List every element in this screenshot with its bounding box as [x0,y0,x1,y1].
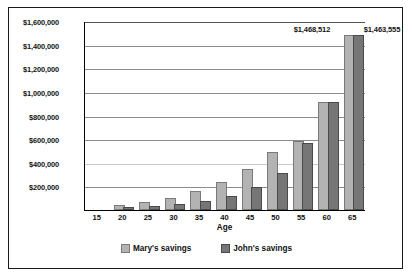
y-axis-tick-label: $400,000 [0,159,59,168]
legend-swatch-icon [221,244,230,253]
legend-item-mary[interactable]: Mary's savings [121,244,191,253]
bar-john-age-65 [353,35,364,210]
bar-john-age-40 [226,196,237,210]
bar-john-age-35 [200,201,211,210]
legend-label: Mary's savings [133,244,191,253]
bar-group [267,22,286,210]
y-axis-tick-label: $800,000 [0,112,59,121]
bar-john-age-30 [174,204,185,210]
legend-label: John's savings [233,244,292,253]
bar-john-age-60 [328,102,339,210]
bar-group [216,22,235,210]
chart-container: $1,600,000$1,400,000$1,200,000$1,000,000… [8,7,403,269]
bar-group [139,22,158,210]
bar-group [318,22,337,210]
bar-john-age-50 [277,173,288,210]
legend-item-john[interactable]: John's savings [221,244,292,253]
bar-group [293,22,312,210]
bar-group [165,22,184,210]
x-axis-tick-label: 65 [337,213,367,222]
bar-group [344,22,363,210]
y-axis-tick-label: $1,200,000 [0,65,59,74]
plot-area [84,22,365,211]
y-axis-tick-label: $1,400,000 [0,41,59,50]
bar-john-age-45 [251,187,262,210]
y-axis-tick-label: $1,000,000 [0,88,59,97]
bar-john-age-55 [302,143,313,210]
x-axis-title: Age [84,223,365,232]
y-axis-tick-label: $200,000 [0,183,59,192]
y-axis-tick-label: $1,600,000 [0,18,59,27]
legend-swatch-icon [121,244,130,253]
data-label: $1,468,512 [294,25,331,34]
bar-group [114,22,133,210]
bar-group [242,22,261,210]
bar-group [190,22,209,210]
chart-legend: Mary's savingsJohn's savings [9,244,404,253]
bar-john-age-25 [149,206,160,210]
bar-john-age-20 [123,207,134,210]
y-axis-tick-label: $600,000 [0,136,59,145]
data-label: $1,463,555 [364,25,401,34]
bar-group [88,22,107,210]
